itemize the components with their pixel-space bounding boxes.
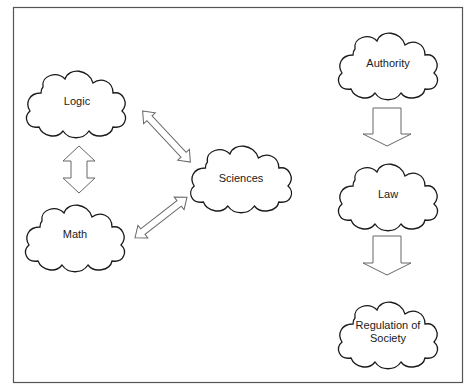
node-label-regulation-line2: Society — [356, 332, 421, 345]
node-label-regulation-line1: Regulation of — [356, 319, 421, 332]
node-label-regulation: Regulation of Society — [356, 319, 421, 345]
node-label-law: Law — [378, 188, 398, 201]
node-label-math: Math — [63, 228, 87, 241]
node-label-logic: Logic — [64, 95, 90, 108]
node-label-sciences: Sciences — [219, 172, 264, 185]
node-label-authority: Authority — [366, 57, 409, 70]
